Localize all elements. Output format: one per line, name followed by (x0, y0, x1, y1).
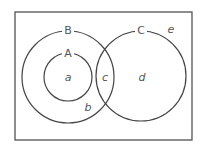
region-a-label: a (65, 71, 72, 84)
region-d-label: d (139, 71, 147, 84)
region-b-label: b (85, 101, 92, 114)
venn-diagram: BAC abcde (0, 0, 206, 147)
region-c-label: c (102, 71, 108, 84)
set-a-label: A (64, 47, 72, 60)
set-c-label: C (137, 24, 145, 37)
set-b-label: B (64, 24, 72, 37)
region-e-label: e (168, 23, 175, 36)
